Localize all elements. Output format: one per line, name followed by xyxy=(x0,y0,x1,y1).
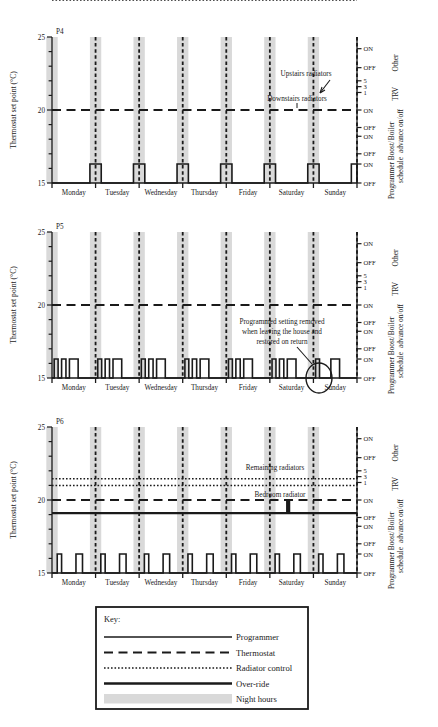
y-axis-title: Thermostat set point (°C) xyxy=(9,266,18,344)
right-group-label-boiler: Boiler xyxy=(387,121,396,140)
right-tick-label: OFF xyxy=(364,150,376,157)
right-group-label-boiler-sub: advance on/off xyxy=(396,498,405,543)
day-label: Sunday xyxy=(324,579,346,587)
right-group-label-other: Other xyxy=(391,444,400,461)
right-group-label-boiler-sub: advance on/off xyxy=(396,108,405,153)
right-tick-label: ON xyxy=(364,523,374,530)
right-tick-label: OFF xyxy=(364,259,376,266)
right-tick-label: OFF xyxy=(364,319,376,326)
day-label: Tuesday xyxy=(105,579,130,587)
panel-label: P4 xyxy=(56,28,64,36)
y-tick-label: 15 xyxy=(38,570,46,578)
right-tick-label: OFF xyxy=(364,375,376,382)
right-group-label-programmer-sub: schedule xyxy=(396,156,405,183)
right-tick-label: ON xyxy=(364,328,374,335)
day-label: Tuesday xyxy=(105,189,130,197)
y-tick-label: 20 xyxy=(38,302,46,310)
right-group-label-boiler: Boiler xyxy=(387,316,396,335)
day-label: Saturday xyxy=(279,384,305,392)
annotation-note-line3: restored on return xyxy=(256,338,307,346)
day-label: Friday xyxy=(239,189,258,197)
right-tick-label: ON xyxy=(364,302,374,309)
right-tick-label: OFF xyxy=(364,124,376,131)
key-label-radiator-control: Radiator control xyxy=(236,663,293,673)
right-group-label-programmer-sub: schedule xyxy=(396,351,405,378)
day-label: Monday xyxy=(62,189,86,197)
key-swatch-night-hours xyxy=(104,694,232,704)
figure-canvas: 152025ONOFF531ONOFFONOFFONOFFP4Thermosta… xyxy=(0,0,438,727)
right-tick-label: 1 xyxy=(364,479,367,486)
y-tick-label: 15 xyxy=(38,180,46,188)
right-group-label-boiler-sub: advance on/off xyxy=(396,303,405,348)
day-label: Wednesday xyxy=(144,189,177,197)
annotation-note-line2: when leaving the house and xyxy=(242,328,322,336)
y-tick-label: 20 xyxy=(38,497,46,505)
day-label: Thursday xyxy=(191,189,219,197)
key-label-over-ride: Over-ride xyxy=(236,679,269,689)
right-group-label-programmer: Programmer Boost/ xyxy=(387,140,396,199)
y-axis-title: Thermostat set point (°C) xyxy=(9,461,18,539)
right-tick-label: ON xyxy=(364,45,374,52)
right-tick-label: OFF xyxy=(364,180,376,187)
right-group-label-trv: TRV xyxy=(391,281,400,296)
day-label: Saturday xyxy=(279,189,305,197)
y-tick-label: 25 xyxy=(38,229,46,237)
annotation-downstairs-radiators: Downstairs radiators xyxy=(267,95,327,103)
right-tick-label: OFF xyxy=(364,540,376,547)
day-label: Thursday xyxy=(191,579,219,587)
right-tick-label: ON xyxy=(364,551,374,558)
annotation-upstairs-radiators: Upstairs radiators xyxy=(281,70,332,78)
annotation-bedroom-radiator: Bedroom radiator xyxy=(255,491,307,499)
day-label: Wednesday xyxy=(144,579,177,587)
day-label: Monday xyxy=(62,579,86,587)
right-tick-label: OFF xyxy=(364,345,376,352)
day-label: Friday xyxy=(239,384,258,392)
right-tick-label: ON xyxy=(364,435,374,442)
right-tick-label: ON xyxy=(364,356,374,363)
right-group-label-programmer: Programmer Boost/ xyxy=(387,530,396,589)
y-tick-label: 20 xyxy=(38,107,46,115)
right-tick-label: OFF xyxy=(364,64,376,71)
annotation-note-line1: Programmed setting removed xyxy=(239,318,324,326)
annotation-leader-line xyxy=(320,80,330,93)
right-tick-label: ON xyxy=(364,133,374,140)
y-tick-label: 25 xyxy=(38,424,46,432)
right-group-label-trv: TRV xyxy=(391,476,400,491)
right-tick-label: ON xyxy=(364,240,374,247)
day-label: Saturday xyxy=(279,579,305,587)
day-label: Wednesday xyxy=(144,384,177,392)
right-group-label-programmer-sub: schedule xyxy=(396,546,405,573)
right-tick-label: OFF xyxy=(364,454,376,461)
right-tick-label: OFF xyxy=(364,514,376,521)
right-tick-label: 1 xyxy=(364,284,367,291)
key-label-night-hours: Night hours xyxy=(236,694,277,704)
day-label: Monday xyxy=(62,384,86,392)
right-tick-label: ON xyxy=(364,107,374,114)
right-tick-label: ON xyxy=(364,161,374,168)
right-tick-label: ON xyxy=(364,497,374,504)
right-group-label-boiler: Boiler xyxy=(387,511,396,530)
right-tick-label: OFF xyxy=(364,570,376,577)
day-label: Friday xyxy=(239,579,258,587)
right-tick-label: 1 xyxy=(364,89,367,96)
key-title: Key: xyxy=(104,615,120,624)
day-label: Sunday xyxy=(324,384,346,392)
annotation-remaining-radiators: Remaining radiators xyxy=(246,464,305,472)
key-label-thermostat: Thermostat xyxy=(236,648,276,658)
right-group-label-programmer: Programmer Boost/ xyxy=(387,335,396,394)
day-label: Tuesday xyxy=(105,384,130,392)
day-label: Sunday xyxy=(324,189,346,197)
heating-schedule-figure: 152025ONOFF531ONOFFONOFFONOFFP4Thermosta… xyxy=(0,0,438,727)
panel-label: P5 xyxy=(56,223,64,231)
key-label-programmer: Programmer xyxy=(236,632,279,642)
y-tick-label: 25 xyxy=(38,34,46,42)
y-tick-label: 15 xyxy=(38,375,46,383)
right-group-label-trv: TRV xyxy=(391,86,400,101)
panel-label: P6 xyxy=(56,418,64,426)
y-axis-title: Thermostat set point (°C) xyxy=(9,71,18,149)
right-group-label-other: Other xyxy=(391,249,400,266)
day-label: Thursday xyxy=(191,384,219,392)
right-group-label-other: Other xyxy=(391,54,400,71)
